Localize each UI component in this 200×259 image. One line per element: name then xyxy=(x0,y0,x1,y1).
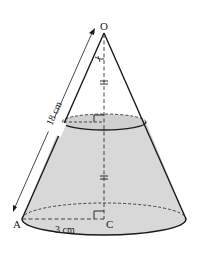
apex-angle-arc xyxy=(95,57,104,59)
arrowhead-top xyxy=(89,28,95,35)
arrowhead-bottom xyxy=(13,205,17,212)
label-point-c: C xyxy=(106,218,113,230)
cone-diagram: O A C 3 cm 18 cm xyxy=(0,0,200,259)
label-point-a: A xyxy=(13,218,21,230)
label-radius: 3 cm xyxy=(55,224,75,235)
label-apex-o: O xyxy=(100,20,108,32)
